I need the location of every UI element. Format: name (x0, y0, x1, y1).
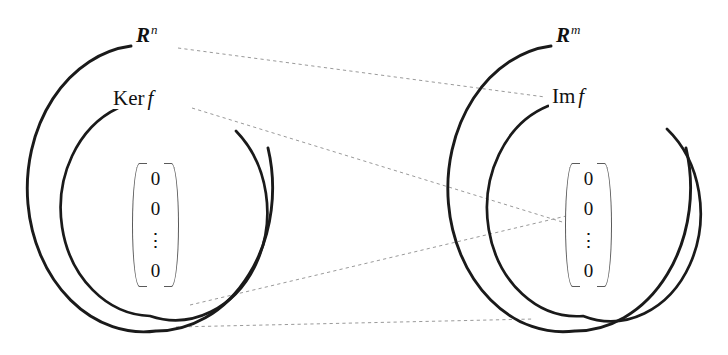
image-label-word: Im (552, 84, 575, 108)
domain-set-label: Rn (133, 23, 161, 46)
vector-right-paren (603, 163, 612, 287)
vector-entry: 0 (584, 199, 594, 219)
image-label-map: f (578, 84, 584, 108)
domain-set-exponent: n (151, 22, 158, 37)
kernel-zero-vector: 0 0 ⋮ 0 (132, 163, 179, 287)
kernel-label-word: Ker (113, 86, 144, 110)
vector-entry: 0 (151, 169, 161, 189)
vector-entry: 0 (151, 199, 161, 219)
codomain-set-exponent: m (571, 22, 580, 37)
vector-left-paren (565, 163, 574, 287)
mapping-lines-group (176, 48, 600, 327)
vector-right-paren (170, 163, 179, 287)
domain-set-symbol: R (136, 23, 150, 47)
mapping-line-zero-to-zero (190, 208, 600, 305)
vector-entry: 0 (151, 261, 161, 281)
image-zero-vector: 0 0 ⋮ 0 (565, 163, 612, 287)
vector-ellipsis: ⋮ (146, 230, 165, 251)
image-label: Imf (549, 86, 587, 107)
linear-map-diagram (0, 0, 728, 355)
mapping-line-kernel-to-zero (192, 108, 598, 233)
codomain-set-symbol: R (556, 23, 570, 47)
kernel-label: Kerf (110, 88, 156, 109)
vector-entry: 0 (584, 261, 594, 281)
mapping-line-domain-to-image (178, 48, 545, 97)
kernel-label-map: f (147, 86, 153, 110)
vector-entry: 0 (584, 169, 594, 189)
vector-ellipsis: ⋮ (579, 230, 598, 251)
codomain-set-label: Rm (553, 23, 583, 46)
mapping-line-boundary-link (176, 319, 534, 327)
vector-left-paren (132, 163, 141, 287)
